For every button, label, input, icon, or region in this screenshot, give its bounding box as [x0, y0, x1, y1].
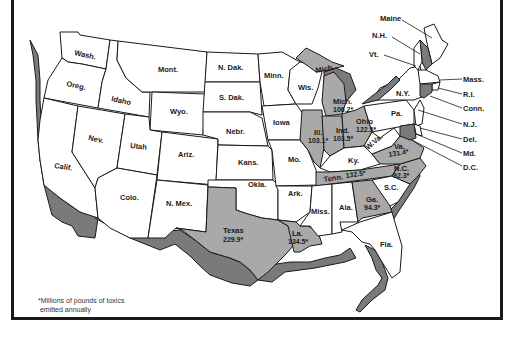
label-okla: Okla.	[248, 180, 266, 189]
label-iowa: Iowa	[273, 118, 290, 127]
label-ndak: N. Dak.	[218, 63, 243, 72]
value-mich: 106.2*	[333, 106, 354, 113]
label-ri: R.I.	[463, 90, 475, 99]
value-ohio: 122.5*	[356, 126, 377, 133]
footnote-line-1: *Millions of pounds of toxics	[38, 296, 124, 305]
state-nj[interactable]	[414, 100, 424, 126]
label-sdak: S. Dak.	[219, 93, 244, 102]
label-nmex: N. Mex.	[166, 199, 192, 208]
label-utah: Utah	[130, 141, 148, 152]
label-fla: Fla.	[380, 240, 393, 249]
label-sc: S.C.	[384, 183, 399, 192]
label-maine: Maine	[380, 14, 401, 23]
label-minn: Minn.	[264, 71, 284, 80]
label-mass: Mass.	[463, 75, 484, 84]
label-la: La.	[292, 229, 303, 238]
label-wis: Wis.	[298, 83, 313, 92]
label-mich: Mich.	[333, 97, 352, 106]
label-conn: Conn.	[463, 104, 484, 113]
label-ariz: Colo.	[120, 193, 139, 202]
label-nebr: Nebr.	[226, 127, 245, 136]
state-nmex[interactable]	[148, 180, 208, 238]
label-ny: N.Y.	[396, 89, 410, 98]
label-ala: Ala.	[339, 203, 353, 212]
value-ill: 103.1*	[308, 137, 329, 144]
label-wyo: Wyo.	[170, 107, 188, 116]
value-nc: 92.3*	[393, 172, 410, 179]
label-ga: Ga.	[366, 195, 378, 204]
value-la: 134.5*	[288, 238, 309, 245]
us-map: Wash. Oreg. Calif. Idaho Nev. Mont. Wyo.…	[0, 0, 513, 338]
value-ga: 94.3*	[364, 204, 381, 211]
value-ind: 103.5*	[333, 135, 354, 142]
label-pa: Pa.	[391, 109, 402, 118]
label-ind: Ind.	[336, 126, 349, 135]
label-ark: Ark.	[288, 189, 303, 198]
label-mo: Mo.	[288, 155, 301, 164]
label-ohio: Ohio	[356, 117, 373, 126]
label-nh: N.H.	[372, 31, 387, 40]
label-vt: Vt.	[369, 50, 379, 59]
state-ariz[interactable]	[95, 168, 157, 238]
value-texas: 229.9*	[223, 236, 244, 243]
label-del: Del.	[463, 135, 477, 144]
label-mont: Mont.	[158, 65, 178, 74]
footnote: *Millions of pounds of toxics emitted an…	[38, 296, 124, 314]
label-nj: N.J.	[463, 120, 477, 129]
state-ri[interactable]	[432, 82, 440, 90]
state-mass[interactable]	[418, 70, 440, 84]
label-dc: D.C.	[463, 163, 478, 172]
label-miss: Miss.	[311, 207, 330, 216]
footnote-line-2: emitted annually	[38, 305, 124, 314]
label-ky: Ky.	[348, 156, 359, 165]
label-md: Md.	[463, 149, 476, 158]
label-ill: Ill.	[314, 128, 322, 137]
label-texas: Texas	[223, 226, 244, 235]
label-kans: Kans.	[238, 158, 258, 167]
label-colo: Ariz.	[178, 150, 194, 159]
